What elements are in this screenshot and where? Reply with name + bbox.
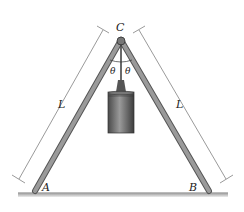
- angle-theta-right: θ: [125, 66, 131, 76]
- pin-c: [117, 37, 125, 45]
- length-label-right: L: [175, 98, 183, 111]
- point-label-b: B: [188, 181, 197, 194]
- hanger-clevis: [116, 80, 126, 92]
- a-frame-diagram: θ θ L L C A B: [0, 0, 244, 212]
- cylinder-weight: [108, 91, 134, 133]
- angle-theta-left: θ: [110, 66, 116, 76]
- point-label-c: C: [116, 21, 125, 34]
- length-label-left: L: [57, 98, 65, 111]
- point-label-a: A: [41, 181, 50, 194]
